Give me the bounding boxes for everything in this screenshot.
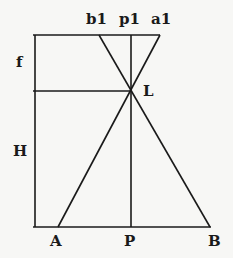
label-a1: a1 <box>151 12 171 27</box>
diagram-lines <box>0 0 233 258</box>
label-H: H <box>13 144 27 159</box>
label-L: L <box>143 84 154 99</box>
label-p1: p1 <box>119 12 140 27</box>
ray-a1-A <box>58 35 160 227</box>
label-f: f <box>16 55 22 70</box>
label-b1: b1 <box>86 12 107 27</box>
label-P: P <box>124 234 135 249</box>
label-B: B <box>208 234 221 249</box>
lens-projection-diagram: b1 p1 a1 f L H A P B <box>0 0 233 258</box>
label-A: A <box>50 234 62 249</box>
ray-b1-B <box>99 35 210 227</box>
